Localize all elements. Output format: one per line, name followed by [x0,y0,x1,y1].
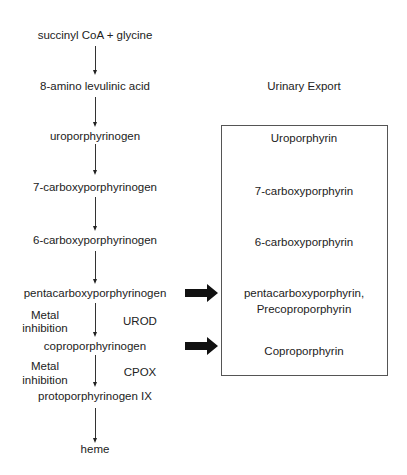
step-succinyl-coa-glycine: succinyl CoA + glycine [38,28,153,42]
export-precoproporphyrin: Precoproporphyrin [257,302,352,316]
cpox-enzyme-label: CPOX [124,365,157,379]
urinary-export-box [221,125,388,376]
export-uroporphyrin: Uroporphyrin [271,131,337,145]
step-protoporphyrinogen-ix: protoporphyrinogen IX [38,389,152,403]
export-coproporphyrin: Coproporphyrin [264,344,343,358]
step-pentacarboxyporphyrinogen: pentacarboxyporphyrinogen [24,286,167,300]
right-arrow-icon [185,284,219,302]
export-pentacarboxyporphyrin: pentacarboxyporphyrin, [244,286,364,300]
right-arrow-icon [185,337,219,355]
step-6-carboxyporphyrinogen: 6-carboxyporphyrinogen [33,233,157,247]
step-aminolevulinic-acid: 8-amino levulinic acid [40,79,150,93]
step-coproporphyrinogen: coproporphyrinogen [44,339,146,353]
cpox-inhibition-label: inhibition [22,373,67,387]
step-uroporphyrinogen: uroporphyrinogen [50,129,140,143]
export-7-carboxyporphyrin: 7-carboxyporphyrin [255,184,353,198]
export-6-carboxyporphyrin: 6-carboxyporphyrin [255,235,353,249]
urod-inhibition-label: inhibition [22,321,67,335]
step-7-carboxyporphyrinogen: 7-carboxyporphyrinogen [33,180,157,194]
cpox-metal-label: Metal [31,359,59,373]
urod-enzyme-label: UROD [123,314,157,328]
urod-metal-label: Metal [31,308,59,322]
urinary-export-title: Urinary Export [267,79,341,93]
step-heme: heme [81,442,110,456]
